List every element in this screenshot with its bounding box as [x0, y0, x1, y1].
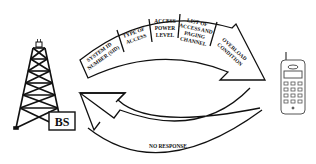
svg-text:LEVEL: LEVEL	[156, 32, 175, 38]
diagram-canvas: BS SYSTEM ID NUMBER (SID) TYPE OF ACCE	[0, 0, 316, 164]
segment-power: ACCESS POWER LEVEL	[154, 18, 175, 38]
base-station-label-box: BS	[49, 112, 75, 130]
svg-text:ACCESS: ACCESS	[154, 18, 175, 24]
return-arrow-label: NO RESPONSE	[149, 143, 187, 149]
mobile-phone-icon	[281, 52, 305, 114]
base-station-label: BS	[55, 115, 70, 129]
svg-text:POWER: POWER	[155, 25, 175, 31]
